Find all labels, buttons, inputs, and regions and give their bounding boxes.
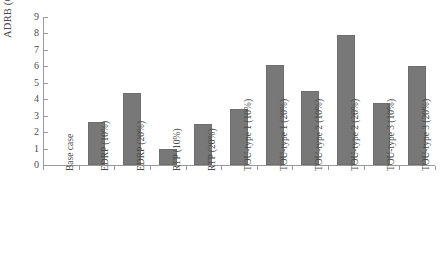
x-tick-mark <box>328 166 329 170</box>
x-axis-label: TOU-type 2 (20%) <box>350 99 361 171</box>
y-tick-mark <box>44 149 48 150</box>
y-tick-mark <box>44 33 48 34</box>
y-tick-label: 9 <box>34 10 39 23</box>
y-tick-mark <box>44 50 48 51</box>
y-tick-label: 5 <box>34 76 39 89</box>
y-tick-label: 6 <box>34 59 39 72</box>
x-tick-mark <box>292 166 293 170</box>
x-tick-mark <box>150 166 151 170</box>
y-tick-label: 8 <box>34 26 39 39</box>
y-axis-line <box>43 17 44 166</box>
y-tick: 3 <box>43 116 48 117</box>
y-tick-label: 4 <box>34 92 39 105</box>
x-axis-label: TOU-type 1 (10%) <box>243 99 254 171</box>
y-tick-label: 1 <box>34 142 39 155</box>
y-tick-mark <box>44 66 48 67</box>
y-tick-mark <box>44 99 48 100</box>
x-axis-label: EDRP (10%) <box>100 121 111 171</box>
y-tick: 1 <box>43 149 48 150</box>
y-tick-mark <box>44 17 48 18</box>
y-tick: 9 <box>43 17 48 18</box>
x-axis-label: EDRP (20%) <box>136 121 147 171</box>
x-axis-label: TOU-type 3 (10%) <box>386 99 397 171</box>
y-tick-mark <box>44 83 48 84</box>
y-tick: 2 <box>43 132 48 133</box>
x-tick-mark <box>221 166 222 170</box>
y-tick: 8 <box>43 33 48 34</box>
x-axis-label: TOU-type 2 (10%) <box>314 99 325 171</box>
x-axis-label: Base case <box>65 134 76 171</box>
y-axis-title: ADRB (€/MWh) <box>2 0 20 56</box>
x-tick-mark <box>257 166 258 170</box>
x-tick-mark <box>435 166 436 170</box>
y-tick: 5 <box>43 83 48 84</box>
x-tick-mark <box>114 166 115 170</box>
y-tick-label: 0 <box>34 158 39 171</box>
y-tick-mark <box>44 116 48 117</box>
y-tick-label: 7 <box>34 43 39 56</box>
x-tick-mark <box>364 166 365 170</box>
x-axis-label: TOU-type 3 (20%) <box>421 99 432 171</box>
y-tick: 6 <box>43 66 48 67</box>
x-tick-mark <box>79 166 80 170</box>
y-tick-label: 2 <box>34 125 39 138</box>
x-tick-mark <box>43 166 44 170</box>
x-axis-label: TOU-type 1 (20%) <box>279 99 290 171</box>
y-tick-mark <box>44 132 48 133</box>
y-tick: 4 <box>43 99 48 100</box>
adrb-bar-chart-figure: ADRB (€/MWh) 0123456789 Base caseEDRP (1… <box>0 0 442 267</box>
y-tick-mark <box>44 165 48 166</box>
y-tick: 7 <box>43 50 48 51</box>
x-tick-mark <box>399 166 400 170</box>
x-axis-label: RTP (20%) <box>207 128 218 171</box>
x-axis-label: RTP (10%) <box>172 128 183 171</box>
y-tick-label: 3 <box>34 109 39 122</box>
x-tick-mark <box>186 166 187 170</box>
